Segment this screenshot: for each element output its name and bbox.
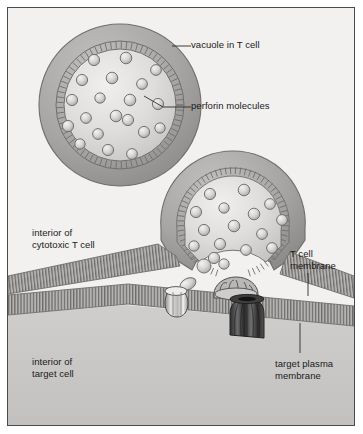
perforin-molecule xyxy=(75,139,85,149)
perforin-molecule xyxy=(122,114,133,125)
perforin-molecule xyxy=(277,215,288,226)
perforin-molecule xyxy=(102,144,113,155)
label-interior-target-cell-line1: interior of xyxy=(32,356,72,368)
perforin-molecule xyxy=(204,188,215,199)
inserting-perforin-ring xyxy=(165,287,188,317)
perforin-molecule xyxy=(95,93,105,103)
perforin-molecule xyxy=(127,149,138,160)
label-t-cell-membrane-line2: membrane xyxy=(290,260,336,272)
perforin-molecule xyxy=(76,74,87,85)
perforin-molecule xyxy=(248,208,260,220)
perforin-molecule xyxy=(241,245,252,256)
label-target-plasma-membrane-line1: target plasma xyxy=(275,358,333,370)
perforin-molecule xyxy=(62,120,73,131)
perforin-molecule xyxy=(81,113,92,124)
perforin-molecule xyxy=(189,241,199,251)
perforin-molecule xyxy=(138,126,149,137)
label-interior-cytotoxic-t-cell-line1: interior of xyxy=(32,227,72,239)
figure-canvas: vacuole in T cell perforin molecules int… xyxy=(0,0,363,434)
label-target-plasma-membrane-line2: membrane xyxy=(275,370,321,382)
perforin-molecule xyxy=(214,238,225,249)
perforin-molecule xyxy=(155,123,165,133)
released-perforin-monomer xyxy=(197,259,211,273)
figure-frame: vacuole in T cell perforin molecules int… xyxy=(7,7,355,426)
perforin-molecule xyxy=(219,259,229,269)
perforin-molecule xyxy=(238,184,250,196)
perforin-molecule xyxy=(120,52,132,64)
perforin-molecule xyxy=(219,203,229,213)
perforin-molecule xyxy=(88,54,99,65)
label-t-cell-membrane-line1: T cell xyxy=(290,248,313,260)
perforin-molecule xyxy=(124,94,136,106)
perforin-molecule xyxy=(110,110,122,122)
label-vacuole-in-t-cell: vacuole in T cell xyxy=(191,39,260,51)
membrane-tick xyxy=(176,110,183,111)
perforin-molecule xyxy=(198,224,209,235)
perforin-molecule xyxy=(265,199,276,210)
membrane-tick xyxy=(176,100,183,101)
label-interior-cytotoxic-t-cell-line2: cytotoxic T cell xyxy=(32,239,95,251)
perforin-molecule xyxy=(228,220,240,232)
completed-transmembrane-pore xyxy=(230,294,264,338)
perforin-molecule xyxy=(106,72,118,84)
perforin-molecule xyxy=(93,129,104,140)
perforin-molecule xyxy=(137,79,148,90)
perforin-molecule xyxy=(257,229,268,240)
perforin-molecule xyxy=(267,243,278,254)
perforin-molecule xyxy=(151,65,162,76)
vacuole-free xyxy=(39,24,201,186)
label-interior-target-cell-line2: target cell xyxy=(32,368,74,380)
perforin-molecule xyxy=(66,94,77,105)
label-perforin-molecules: perforin molecules xyxy=(191,100,270,112)
perforin-molecule xyxy=(190,206,201,217)
